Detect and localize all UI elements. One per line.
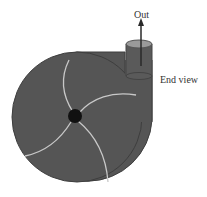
discharge-pipe xyxy=(126,40,152,80)
impeller-hub xyxy=(68,109,82,123)
out-label: Out xyxy=(134,9,149,20)
pump-diagram: Out End view xyxy=(0,0,207,197)
end-view-label: End view xyxy=(160,74,199,85)
